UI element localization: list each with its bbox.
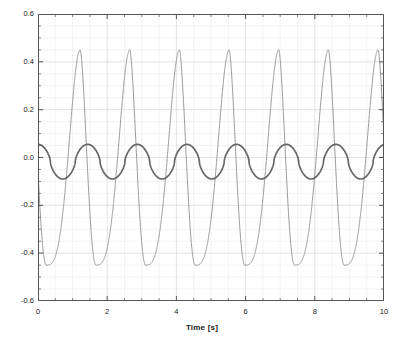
y-tick-label: 0.4	[24, 58, 34, 66]
x-tick-label: 2	[105, 308, 109, 316]
y-tick-label: -0.2	[21, 202, 34, 210]
chart-figure: 0.6 0.4 0.2 0.0 -0.2 -0.4 -0.6 0 2 4 6 8…	[0, 0, 404, 345]
x-axis-label: Time [s]	[0, 323, 404, 332]
y-tick-label: 0.0	[24, 154, 34, 162]
y-tick-label: 0.6	[24, 10, 34, 18]
y-axis-tick-labels: 0.6 0.4 0.2 0.0 -0.2 -0.4 -0.6	[0, 0, 38, 345]
x-tick-label: 4	[174, 308, 178, 316]
y-tick-label: -0.6	[21, 297, 34, 305]
y-tick-label: 0.2	[24, 106, 34, 114]
x-tick-label: 8	[313, 308, 317, 316]
y-tick-label: -0.4	[21, 249, 34, 257]
x-tick-label: 10	[380, 308, 388, 316]
plot-svg	[38, 14, 384, 301]
plot-area	[38, 14, 384, 301]
x-tick-label: 6	[244, 308, 248, 316]
x-tick-label: 0	[36, 308, 40, 316]
